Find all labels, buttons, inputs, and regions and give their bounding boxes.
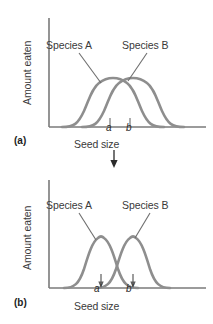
panel-b-tick-label-a-prime: a′ — [94, 284, 101, 294]
panel-b: Species A Species B Amount eaten Seed si… — [0, 162, 213, 324]
panel-a-tick-label-a: a — [106, 123, 112, 133]
panel-a-axes — [49, 18, 206, 127]
panel-b-axes — [49, 180, 206, 288]
leader-line-species-b — [135, 213, 150, 238]
panel-b-tick-label-b-prime: b′ — [126, 284, 133, 294]
leader-line-species-a — [79, 53, 101, 83]
leader-line-species-a — [79, 213, 96, 240]
panel-a-species-a-label: Species A — [46, 40, 92, 51]
panel-a: Species A Species B Amount eaten Seed si… — [0, 0, 213, 162]
panel-a-species-b-label: Species B — [122, 40, 168, 51]
panel-b-letter: (b) — [14, 298, 27, 308]
panel-a-letter: (a) — [14, 136, 26, 146]
panel-b-species-b-label: Species B — [122, 200, 168, 211]
panel-b-x-axis-label: Seed size — [74, 301, 119, 312]
character-displacement-figure: Species A Species B Amount eaten Seed si… — [0, 0, 213, 324]
panel-b-species-a-label: Species A — [46, 200, 92, 211]
panel-b-y-axis-label: Amount eaten — [22, 206, 33, 270]
panel-a-tick-label-b: b — [126, 123, 132, 133]
leader-line-species-b — [128, 53, 147, 81]
panel-a-y-axis-label: Amount eaten — [22, 41, 33, 105]
